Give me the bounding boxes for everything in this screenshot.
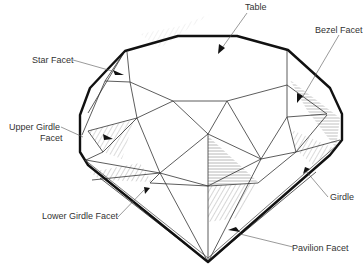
label-upper-girdle-facet-line2: Facet <box>40 133 63 144</box>
label-star-facet: Star Facet <box>32 55 74 66</box>
label-girdle: Girdle <box>330 192 354 203</box>
star-arrow-icon <box>113 70 124 75</box>
label-bezel-facet: Bezel Facet <box>315 25 363 36</box>
label-table: Table <box>245 2 267 13</box>
label-pavilion-facet: Pavilion Facet <box>292 243 349 254</box>
shaded-facets <box>88 14 340 222</box>
label-upper-girdle-facet-line1: Upper Girdle <box>9 122 60 133</box>
pavilion-arrow-icon <box>228 227 240 232</box>
lower-girdle-arrow-icon <box>144 187 150 194</box>
label-lower-girdle-facet: Lower Girdle Facet <box>42 211 118 222</box>
arrowheads <box>103 44 310 232</box>
